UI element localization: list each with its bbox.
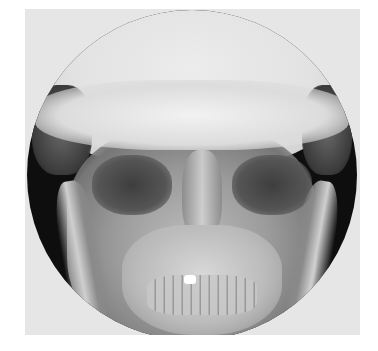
supraorbital-ridge bbox=[35, 80, 349, 150]
xray-film bbox=[25, 9, 360, 335]
right-orbit bbox=[232, 155, 312, 215]
radiograph-field bbox=[27, 10, 357, 335]
dental-filling bbox=[184, 275, 196, 284]
dentition bbox=[147, 275, 257, 315]
left-orbit bbox=[92, 155, 172, 215]
